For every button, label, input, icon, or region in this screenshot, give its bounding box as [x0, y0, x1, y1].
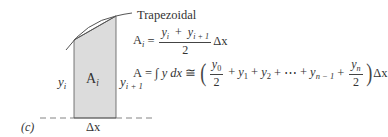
eq2-lhs: A	[133, 67, 142, 80]
eq1-lhs: Ai	[133, 34, 144, 48]
eq1-factor: Δx	[213, 35, 227, 48]
trapezoid-area	[74, 16, 116, 118]
area-label: Ai	[86, 72, 99, 89]
composite-trapezoidal-equation: A = ∫ y dx ≅ ( y0 2 +y1 +y2 +⋯ +yn − 1 +…	[133, 58, 388, 88]
eq2-integral: ∫ y dx	[155, 67, 182, 80]
eq1-numerator: yi + yi + 1	[159, 26, 211, 43]
eq2-open-paren: (	[200, 60, 206, 86]
eq2-term-2: +y2	[248, 66, 271, 80]
method-title: Trapezoidal	[137, 9, 196, 22]
eq2-term-ellipsis: +⋯	[271, 67, 297, 80]
eq2-first-fraction: y0 2	[210, 58, 223, 88]
left-height-label: yi	[58, 75, 66, 91]
eq2-term-n-minus-1: +yn − 1	[297, 66, 334, 80]
eq2-term-1: +y1	[225, 66, 248, 80]
width-label: Δx	[86, 121, 100, 134]
eq1-fraction: yi + yi + 1 2	[159, 26, 211, 56]
eq2-plus-last: +	[337, 67, 344, 80]
panel-label: (c)	[21, 121, 34, 133]
eq1-denominator: 2	[182, 43, 188, 56]
eq2-factor: Δx	[373, 67, 387, 80]
eq2-equals: =	[145, 67, 152, 80]
eq1-equals: =	[147, 35, 154, 48]
eq2-last-fraction: yn 2	[349, 58, 362, 88]
trapezoid-area-equation: Ai = yi + yi + 1 2 Δx	[133, 26, 227, 56]
eq2-approx: ≅	[185, 67, 196, 80]
eq2-close-paren: )	[366, 60, 372, 86]
